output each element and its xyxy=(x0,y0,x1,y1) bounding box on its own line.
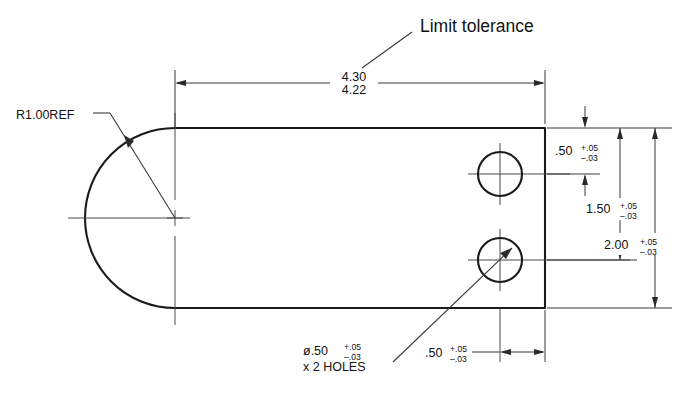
dim-overall-height-tol-plus: +.05 xyxy=(640,237,657,247)
limit-tolerance-note: Limit tolerance xyxy=(362,16,534,68)
dim-top-to-lower-hole-tol-minus: –.03 xyxy=(620,211,637,221)
dim-top-to-upper-hole-value: .50 xyxy=(555,144,572,158)
dim-edge-to-hole-tol-plus: +.05 xyxy=(450,344,467,354)
dim-overall-height-value: 2.00 xyxy=(604,238,628,252)
dim-overall-height-tol-minus: –.03 xyxy=(640,247,657,257)
dim-200-arrowhead-top xyxy=(652,128,658,139)
dim-edge-to-hole-value: .50 xyxy=(425,346,442,360)
radius-reference-note: R1.00REF xyxy=(16,108,175,218)
radius-leader-arrowhead xyxy=(124,135,134,148)
dim-top-to-upper-hole-tol-plus: +.05 xyxy=(581,143,598,153)
dim-top-to-upper-hole-tol-minus: –.03 xyxy=(581,153,598,163)
drawing-sheet: 4.30 4.22 Limit tolerance R1.00REF xyxy=(0,0,689,393)
dim-50-arrowhead-down xyxy=(582,117,588,128)
hole-diameter-tol-plus: +.05 xyxy=(344,342,361,352)
hole-diameter-note: ø.50 +.05 –.03 x 2 HOLES xyxy=(303,248,512,374)
dim-top-to-lower-hole-tol-plus: +.05 xyxy=(620,201,637,211)
overall-length-lower-limit: 4.22 xyxy=(342,83,366,97)
dim-top-to-lower-hole-value: 1.50 xyxy=(586,202,610,216)
edge-dim-arrowhead-left xyxy=(500,349,511,355)
overall-length-dimension: 4.30 4.22 xyxy=(175,70,545,128)
dimension-top-to-upper-hole: .50 +.05 –.03 xyxy=(555,106,598,196)
technical-drawing-canvas: 4.30 4.22 Limit tolerance R1.00REF xyxy=(0,0,689,393)
dim-edge-to-hole-tol-minus: –.03 xyxy=(450,354,467,364)
limit-tolerance-label: Limit tolerance xyxy=(420,16,534,36)
dim-150-arrowhead-top xyxy=(617,128,623,139)
radius-ref-label: R1.00REF xyxy=(16,108,75,122)
length-arrowhead-right xyxy=(534,80,545,86)
limit-tolerance-leader xyxy=(362,32,412,68)
hole-quantity-label: x 2 HOLES xyxy=(303,360,366,374)
dim-50-arrowhead-up xyxy=(582,174,588,185)
edge-dim-arrowhead-right xyxy=(534,349,545,355)
length-arrowhead-left xyxy=(175,80,186,86)
overall-length-upper-limit: 4.30 xyxy=(342,70,366,84)
dimension-edge-to-hole: .50 +.05 –.03 xyxy=(425,310,545,364)
dim-200-arrowhead-bottom xyxy=(652,297,658,308)
hole-diameter-value: ø.50 xyxy=(303,344,328,358)
